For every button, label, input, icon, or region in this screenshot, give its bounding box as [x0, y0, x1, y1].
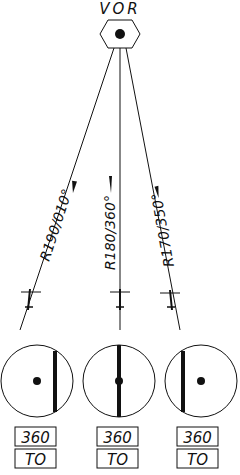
cdi-instrument-right [165, 345, 237, 417]
radial-label-170: R170/350° [148, 192, 177, 269]
svg-text:360: 360 [183, 429, 212, 447]
aircraft-icon [110, 289, 130, 310]
vor-center-dot-icon [115, 29, 125, 39]
svg-text:R190/010°: R190/010° [37, 187, 75, 263]
flag-box-right: TO [177, 449, 218, 469]
svg-text:R180/360°: R180/360° [102, 195, 118, 270]
vor-label: VOR [99, 0, 141, 18]
aircraft-icon [160, 290, 180, 310]
obs-box-right: 360 [177, 427, 218, 447]
vor-diagram: VOR R190/010° R180/360° R170/350° [0, 0, 240, 475]
obs-box-center: 360 [97, 427, 138, 447]
aircraft-icon [21, 289, 41, 310]
radial-line-190 [20, 48, 114, 330]
svg-text:TO: TO [25, 451, 46, 469]
arrow-up-icon [109, 176, 112, 193]
svg-text:360: 360 [21, 429, 50, 447]
svg-text:TO: TO [187, 451, 208, 469]
cdi-instrument-center [83, 345, 155, 417]
svg-text:360: 360 [103, 429, 132, 447]
radial-label-190: R190/010° [37, 187, 75, 263]
radial-line-170 [126, 48, 180, 330]
flag-box-center: TO [97, 449, 138, 469]
obs-box-left: 360 [15, 427, 56, 447]
svg-text:TO: TO [107, 451, 128, 469]
svg-text:R170/350°: R170/350° [148, 192, 177, 269]
cdi-instrument-left [1, 345, 73, 417]
radial-label-180: R180/360° [102, 195, 118, 270]
flag-box-left: TO [15, 449, 56, 469]
